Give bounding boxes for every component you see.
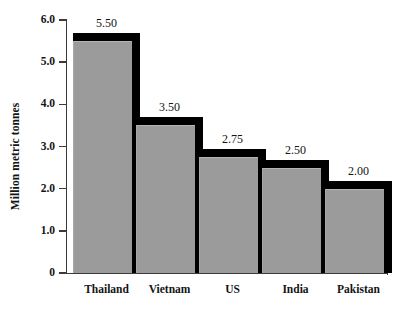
bar-value-label: 2.50	[254, 144, 337, 156]
bar-value-label: 2.00	[317, 165, 400, 177]
bar-value-label: 3.50	[128, 101, 211, 113]
y-axis-tick-label: 5.0	[15, 56, 55, 68]
bar-vietnam[interactable]	[136, 125, 195, 273]
y-axis-tick-label: 0	[15, 267, 55, 279]
y-axis-tick	[59, 146, 67, 147]
y-axis-tick-label: 1.0	[15, 225, 55, 237]
bar-value-label: 5.50	[65, 17, 148, 29]
bar-us[interactable]	[199, 157, 258, 273]
y-axis-tick-label: 2.0	[15, 183, 55, 195]
x-axis-line	[66, 273, 388, 274]
x-axis-category-label: Pakistan	[315, 283, 402, 296]
bar-india[interactable]	[262, 168, 321, 273]
y-axis-tick	[59, 188, 67, 189]
y-axis-tick	[59, 230, 67, 231]
bar-thailand[interactable]	[73, 41, 132, 273]
y-axis-tick-label: 3.0	[15, 141, 55, 153]
y-axis-tick-label: 4.0	[15, 98, 55, 110]
bar-pakistan[interactable]	[325, 189, 384, 273]
bar-chart: Million metric tonnes 6.05.04.03.02.01.0…	[0, 0, 409, 313]
y-axis-tick	[59, 61, 67, 62]
y-axis-tick	[59, 104, 67, 105]
y-axis-tick	[59, 272, 67, 273]
y-axis-tick-label: 6.0	[15, 14, 55, 26]
